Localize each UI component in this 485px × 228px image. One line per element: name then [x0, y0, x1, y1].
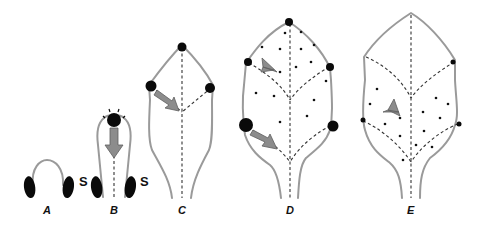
panel-c: C [146, 43, 216, 217]
hydathode-lower-right-icon [328, 121, 339, 132]
panel-b: S B [91, 109, 149, 216]
panel-e: E [361, 13, 462, 216]
hydathode-apical-icon [103, 109, 125, 127]
hydathode-apical-icon [285, 18, 293, 26]
panel-a: S A [24, 160, 88, 216]
hydathode-upper-right-icon [326, 63, 334, 71]
panel-label-c: C [178, 204, 187, 216]
growth-arrow-icon [105, 128, 123, 158]
hydathode-right-icon [205, 83, 215, 93]
leaf-primordium-outline [33, 160, 63, 185]
upper-lateral-vein-left [366, 57, 411, 98]
arrowhead-icon [261, 58, 277, 72]
panel-label-d: D [286, 204, 294, 216]
hydathode-left-icon [146, 81, 157, 92]
arrowhead-icon [383, 99, 400, 116]
growth-arrow-icon [154, 90, 179, 111]
leaf-outline [243, 22, 332, 198]
stomata-dots [369, 88, 450, 162]
panel-label-e: E [407, 204, 415, 216]
hydathode-apical-icon [178, 43, 187, 52]
growth-arrow-icon [250, 130, 277, 149]
hydathode-lower-left-icon [361, 118, 366, 123]
hydathode-upper-left-icon [244, 58, 252, 66]
upper-lateral-vein-right [411, 62, 454, 98]
lower-lateral-vein-right [411, 124, 458, 162]
hydathode-lower-left-icon [239, 118, 253, 132]
hydathode-upper-right-icon [451, 60, 456, 65]
panel-label-a: A [42, 204, 51, 216]
diagram-canvas: S A S B C [0, 0, 485, 228]
stipule-right-icon [63, 176, 74, 198]
leaf-outline [149, 45, 213, 198]
hydathode-lower-right-icon [457, 122, 462, 127]
stomata-dots [255, 31, 328, 124]
stipule-label: S [79, 174, 88, 189]
leaf-development-diagram: S A S B C [0, 0, 485, 228]
leaf-outline [363, 13, 457, 198]
upper-lateral-vein-right [290, 67, 329, 100]
panel-label-b: B [110, 204, 118, 216]
lower-lateral-vein-right [290, 126, 330, 162]
stipule-label: S [140, 174, 149, 189]
panel-d: D [239, 18, 339, 216]
